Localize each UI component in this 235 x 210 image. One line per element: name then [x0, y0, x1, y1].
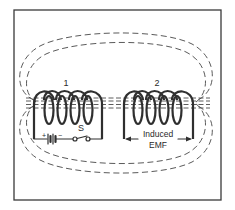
switch-label: S: [78, 123, 84, 133]
battery-minus-label: −: [58, 132, 62, 139]
coil1-label: 1: [63, 78, 68, 88]
emf-label-line2: EMF: [149, 140, 167, 150]
coil2-label: 2: [154, 78, 159, 88]
mutual-induction-diagram: 1 + − S 2 Induced: [0, 0, 235, 210]
emf-label-line1: Induced: [143, 129, 174, 139]
battery-plus-label: +: [42, 132, 46, 139]
